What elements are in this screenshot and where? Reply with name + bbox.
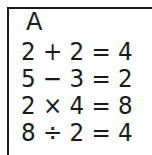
card-label: A — [26, 10, 42, 34]
equation-subtraction: 5 − 3 = 2 — [21, 65, 133, 93]
equation-division: 8 ÷ 2 = 4 — [21, 119, 133, 147]
equation-multiplication: 2 × 4 = 8 — [21, 92, 133, 120]
equation-addition: 2 + 2 = 4 — [21, 38, 133, 66]
